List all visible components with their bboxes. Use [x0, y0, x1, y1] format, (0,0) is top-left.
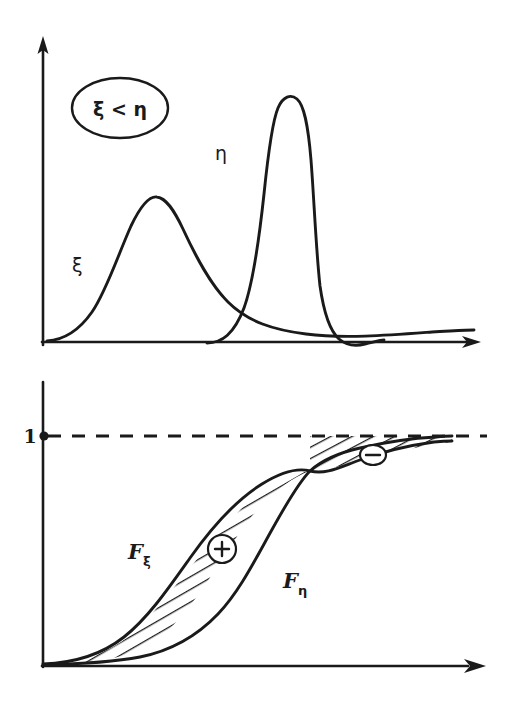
f-eta-label-subscript: η [298, 583, 307, 598]
negative-region-badge [360, 445, 386, 465]
figure-root: ξ < η ξ η 1 F ξ [0, 0, 517, 710]
f-eta-cdf-curve [43, 436, 452, 665]
f-xi-label: F ξ [127, 539, 151, 569]
positive-region-badge [208, 535, 236, 563]
density-y-axis [38, 36, 49, 345]
unit-tick-label: 1 [23, 425, 36, 447]
xi-density-label: ξ [72, 254, 83, 276]
stochastic-dominance-figure: ξ < η ξ η 1 F ξ [0, 0, 517, 710]
cdf-panel: 1 F ξ F η [23, 382, 487, 680]
xi-less-than-eta-bubble: ξ < η [72, 78, 168, 138]
f-eta-label: F η [282, 568, 307, 598]
bubble-label: ξ < η [93, 98, 147, 120]
f-xi-label-subscript: ξ [143, 554, 151, 569]
eta-density-label: η [215, 142, 227, 164]
density-x-axis [42, 336, 481, 348]
density-panel: ξ < η ξ η [38, 36, 482, 348]
unit-tick-dot [39, 431, 48, 440]
f-xi-cdf-curve [43, 441, 452, 664]
